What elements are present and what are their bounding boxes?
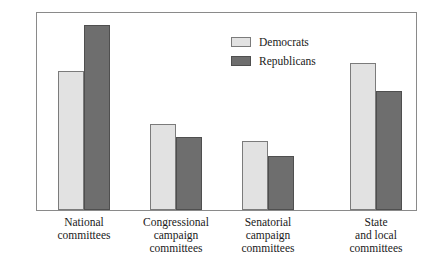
legend-label: Republicans	[259, 55, 316, 67]
bar-democrats-1	[150, 124, 176, 210]
legend-item-republicans: Republicans	[231, 52, 316, 69]
category-label-line: Senatorial	[213, 216, 323, 229]
bar-republicans-3	[376, 91, 402, 210]
plot-area: DemocratsRepublicans	[36, 12, 417, 211]
x-axis-category-label: Senatorialcampaigncommittees	[213, 216, 323, 255]
category-label-line: State	[321, 216, 431, 229]
category-label-line: committees	[321, 242, 431, 255]
bar-republicans-1	[176, 137, 202, 210]
bar-chart-figure: 50100150200250300350400 DemocratsRepubli…	[0, 0, 432, 267]
category-label-line: committees	[213, 242, 323, 255]
category-label-line: campaign	[213, 229, 323, 242]
x-axis-category-label: Stateand localcommittees	[321, 216, 431, 255]
legend-swatch-icon	[231, 56, 251, 66]
legend-item-democrats: Democrats	[231, 33, 316, 50]
bar-republicans-0	[84, 25, 110, 210]
chart-legend: DemocratsRepublicans	[231, 33, 316, 71]
legend-label: Democrats	[259, 36, 309, 48]
bar-republicans-2	[268, 156, 294, 210]
bar-democrats-0	[58, 71, 84, 210]
legend-swatch-icon	[231, 37, 251, 47]
category-label-line: and local	[321, 229, 431, 242]
bar-democrats-3	[350, 63, 376, 210]
bar-democrats-2	[242, 141, 268, 210]
